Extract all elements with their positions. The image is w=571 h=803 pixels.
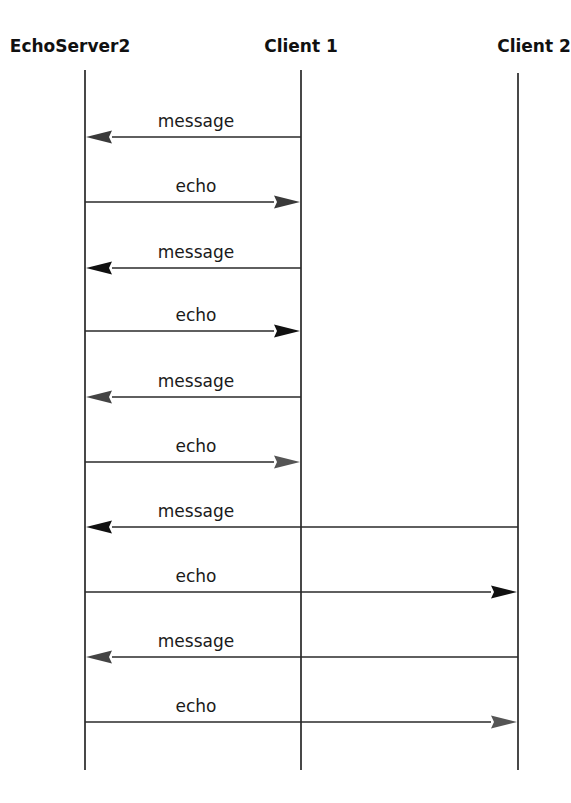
arrow-right-icon xyxy=(274,456,300,469)
actor-server: EchoServer2 xyxy=(10,36,130,770)
message-4-echo: echo xyxy=(85,305,300,338)
message-label: echo xyxy=(176,176,217,196)
message-label: echo xyxy=(176,436,217,456)
sequence-diagram-canvas: EchoServer2Client 1Client 2 messageechom… xyxy=(0,0,571,803)
actor-label: Client 2 xyxy=(497,36,571,56)
arrow-right-icon xyxy=(491,586,517,599)
message-3-message: message xyxy=(86,242,301,275)
arrow-right-icon xyxy=(274,325,300,338)
arrow-left-icon xyxy=(86,131,112,144)
sequence-diagram: EchoServer2Client 1Client 2 messageechom… xyxy=(0,0,571,803)
message-9-message: message xyxy=(86,631,518,664)
actor-client2: Client 2 xyxy=(497,36,571,770)
arrow-right-icon xyxy=(491,716,517,729)
arrow-left-icon xyxy=(86,262,112,275)
arrow-right-icon xyxy=(274,196,300,209)
arrow-left-icon xyxy=(86,651,112,664)
message-label: message xyxy=(158,501,234,521)
message-2-echo: echo xyxy=(85,176,300,209)
message-label: echo xyxy=(176,696,217,716)
actor-client1: Client 1 xyxy=(264,36,338,770)
message-label: message xyxy=(158,631,234,651)
message-label: message xyxy=(158,111,234,131)
message-6-echo: echo xyxy=(85,436,300,469)
message-7-message: message xyxy=(86,501,518,534)
actor-label: Client 1 xyxy=(264,36,338,56)
message-label: echo xyxy=(176,305,217,325)
arrow-left-icon xyxy=(86,521,112,534)
arrow-left-icon xyxy=(86,391,112,404)
message-label: message xyxy=(158,371,234,391)
actor-label: EchoServer2 xyxy=(10,36,130,56)
actors: EchoServer2Client 1Client 2 xyxy=(10,36,571,770)
message-1-message: message xyxy=(86,111,301,144)
message-label: echo xyxy=(176,566,217,586)
message-label: message xyxy=(158,242,234,262)
message-5-message: message xyxy=(86,371,301,404)
